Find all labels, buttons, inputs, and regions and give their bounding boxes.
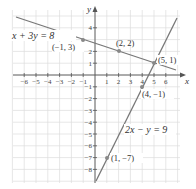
y-tick-label: 2: [89, 48, 93, 56]
point-label-2-2: (2, 2): [116, 38, 135, 48]
y-tick-label: −1: [85, 83, 93, 91]
y-tick-label: −3: [85, 107, 93, 115]
point-1-m7: [105, 156, 109, 160]
y-tick-label: −5: [85, 131, 93, 139]
point-label-1-m7: (1, −7): [111, 153, 134, 163]
point-5-1: [152, 61, 156, 65]
y-axis-arrow-icon: [93, 6, 98, 12]
point-2-2: [117, 49, 121, 53]
x-tick-label: −5: [32, 78, 40, 86]
x-tick-label: −4: [44, 78, 52, 86]
point-label-4-m1: (4, −1): [142, 89, 165, 99]
x-tick-label: 3: [129, 78, 133, 86]
equation-2-label: 2x − y = 9: [125, 124, 167, 135]
tick-labels: −6−5−4−3−2−1123456−8−7−6−5−4−3−2−1124: [20, 24, 168, 174]
x-axis-label: x: [184, 76, 189, 86]
coordinate-plane: −6−5−4−3−2−1123456−8−7−6−5−4−3−2−1124 x …: [0, 0, 196, 189]
x-tick-label: −6: [20, 78, 28, 86]
y-tick-label: 4: [89, 24, 93, 32]
x-tick-label: 6: [164, 78, 168, 86]
point-m1-3: [81, 38, 85, 42]
point-label-m1-3: (−1, 3): [52, 42, 75, 52]
y-tick-label: −7: [85, 154, 93, 162]
y-tick-label: −8: [85, 166, 93, 174]
y-tick-label: −4: [85, 119, 93, 127]
equation-1-label: x + 3y = 8: [11, 30, 54, 41]
line-x-plus-3y-eq-8: [16, 17, 176, 70]
x-tick-label: 2: [117, 78, 121, 86]
x-tick-label: −3: [56, 78, 64, 86]
x-tick-label: −2: [68, 78, 76, 86]
y-tick-label: −6: [85, 142, 93, 150]
y-tick-label: 1: [89, 60, 93, 68]
y-axis-label: y: [86, 4, 91, 14]
x-tick-label: 1: [105, 78, 109, 86]
point-label-5-1: (5, 1): [158, 55, 177, 65]
x-tick-label: 5: [152, 78, 156, 86]
y-tick-label: −2: [85, 95, 93, 103]
